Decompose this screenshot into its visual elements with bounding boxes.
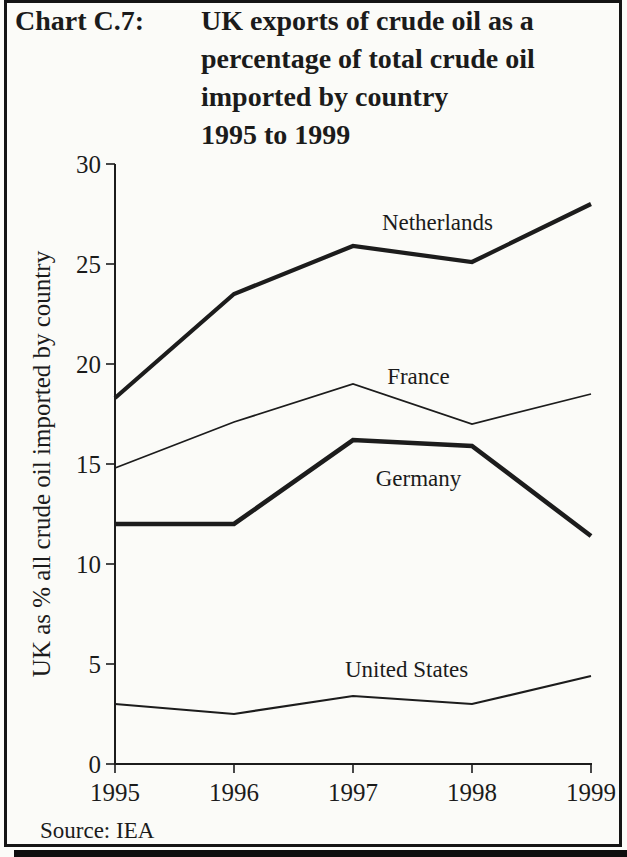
series-label-united-states: United States: [345, 657, 468, 682]
y-tick-label: 5: [89, 651, 102, 678]
series-line-netherlands: [115, 204, 591, 398]
y-tick-label: 15: [76, 451, 101, 478]
series-label-france: France: [387, 364, 450, 389]
x-tick-label: 1999: [566, 779, 616, 806]
y-tick-label: 25: [76, 251, 101, 278]
y-tick-label: 20: [76, 351, 101, 378]
page-container: Chart C.7: UK exports of crude oil as a …: [0, 0, 627, 857]
series-line-germany: [115, 440, 591, 536]
y-tick-label: 10: [76, 551, 101, 578]
y-tick-label: 0: [89, 751, 102, 778]
x-tick-label: 1997: [328, 779, 378, 806]
source-note: Source: IEA: [40, 818, 154, 844]
series-line-france: [115, 384, 591, 468]
x-tick-label: 1998: [447, 779, 497, 806]
series-label-germany: Germany: [376, 466, 462, 491]
page-edge-bar: [14, 850, 627, 857]
y-tick-label: 30: [76, 151, 101, 178]
x-tick-label: 1996: [209, 779, 259, 806]
line-chart: 05101520253019951996199719981999Netherla…: [0, 0, 627, 857]
series-label-netherlands: Netherlands: [382, 210, 493, 235]
x-tick-label: 1995: [90, 779, 140, 806]
